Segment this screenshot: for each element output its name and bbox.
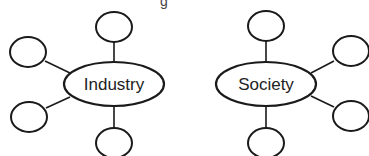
empty-node-upper-right[interactable] [333,36,369,66]
industry-web: Industry [10,12,164,156]
empty-node-bottom[interactable] [96,128,132,156]
cropped-text-fragment: g [160,0,168,9]
empty-node-bottom[interactable] [248,128,284,156]
empty-node-lower-left[interactable] [11,102,47,132]
empty-node-top[interactable] [248,11,284,41]
hub-label-industry: Industry [84,75,145,94]
connector-lower-left [46,97,70,108]
empty-node-upper-left[interactable] [10,37,46,67]
empty-node-lower-right[interactable] [333,101,369,131]
connector-upper-right [311,61,334,73]
concept-web-diagram: g Industry Society [0,0,369,156]
empty-node-top[interactable] [96,12,132,42]
connector-lower-right [311,96,334,107]
connector-upper-left [45,61,70,73]
hub-label-society: Society [238,75,294,94]
society-web: Society [216,11,369,156]
